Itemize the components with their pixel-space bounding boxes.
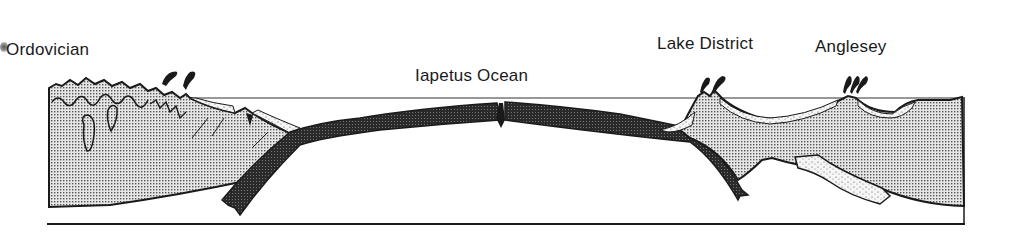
volcano-plume-icon <box>712 76 726 94</box>
cross-section-diagram <box>0 0 1011 237</box>
volcano-plume-icon <box>162 72 177 87</box>
left-continent <box>49 78 300 207</box>
volcano-plume-icon <box>183 72 195 90</box>
